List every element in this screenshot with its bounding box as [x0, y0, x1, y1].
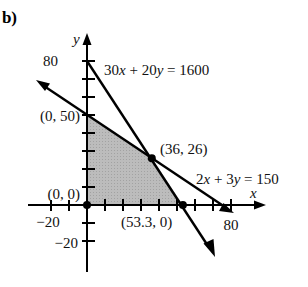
y-axis-label: y — [71, 31, 80, 47]
point-label-0-50: (0, 50) — [40, 108, 80, 125]
point-label-36-26: (36, 26) — [160, 141, 208, 158]
eq1-rhs: = 1600 — [163, 62, 209, 78]
x-axis-label: x — [249, 185, 257, 201]
figure-panel: b) — [0, 0, 308, 287]
point-intersection-dot — [148, 154, 156, 162]
x-axis-arrowhead — [254, 201, 266, 210]
point-x-intercept-dot — [179, 201, 187, 209]
x-tick-label-minus20: −20 — [36, 214, 59, 230]
point-label-origin: (0, 0) — [48, 186, 81, 203]
eq1-coef-a: 30 — [104, 62, 119, 78]
graph-canvas: x y 80 −20 −20 80 (0, 0) (0, 50) (36, 26… — [0, 0, 308, 287]
feasible-region-shading — [87, 115, 183, 205]
eq2-rhs: = 150 — [240, 171, 278, 187]
eq2-coef-b: + 3 — [210, 171, 233, 187]
point-label-53-0: (53.3, 0) — [121, 214, 172, 231]
eq1-coef-b: + 20 — [126, 62, 157, 78]
x-tick-label-80: 80 — [224, 217, 239, 233]
y-tick-label-80: 80 — [43, 53, 58, 69]
point-origin-dot — [83, 201, 91, 209]
eq1-var-y: y — [155, 62, 164, 78]
y-axis-ticks — [82, 61, 95, 241]
equation-label-2: 2x + 3y = 150 — [196, 171, 279, 187]
eq2-var-y: y — [232, 171, 241, 187]
equation-label-1: 30x + 20y = 1600 — [104, 62, 209, 78]
y-axis-arrowhead — [83, 33, 92, 45]
y-tick-label-minus20: −20 — [55, 235, 78, 251]
eq2-coef-a: 2 — [196, 171, 204, 187]
